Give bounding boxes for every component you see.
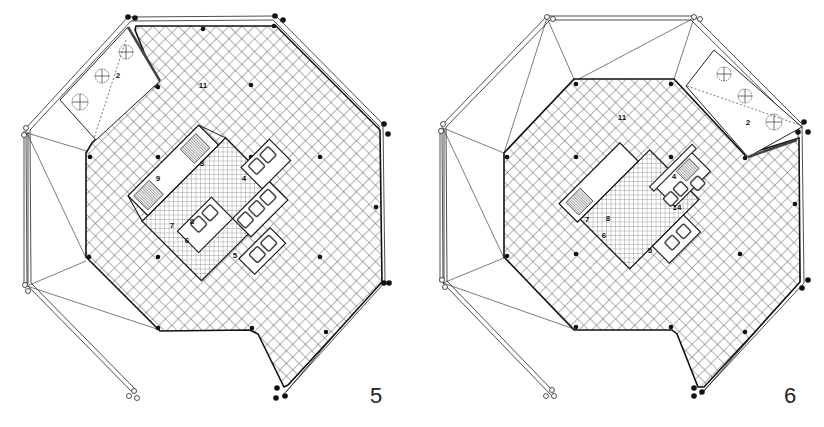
- floor-plan-6-drawing: 1124147865: [412, 0, 824, 427]
- room-label: 6: [185, 236, 190, 245]
- room-label: 14: [673, 203, 682, 212]
- room-label: 6: [602, 231, 607, 240]
- floor-plan-5: 1123497865 5: [0, 0, 412, 427]
- room-label: 5: [233, 251, 238, 260]
- room-label: 3: [200, 159, 205, 168]
- room-label: 11: [618, 113, 627, 122]
- room-label: 11: [199, 81, 208, 90]
- room-label: 7: [585, 215, 590, 224]
- figure-number-5: 5: [370, 385, 382, 407]
- room-label: 8: [606, 214, 611, 223]
- room-label: 9: [156, 174, 161, 183]
- figure-number-6: 6: [784, 385, 796, 407]
- room-label: 7: [170, 221, 175, 230]
- room-label: 2: [746, 118, 751, 127]
- room-label: 4: [672, 172, 677, 181]
- room-label: 4: [242, 174, 247, 183]
- floor-plan-6: 1124147865 6: [412, 0, 824, 427]
- room-label: 2: [116, 71, 121, 80]
- room-label: 8: [190, 217, 195, 226]
- room-label: 5: [648, 246, 653, 255]
- floor-plan-5-drawing: 1123497865: [0, 0, 412, 427]
